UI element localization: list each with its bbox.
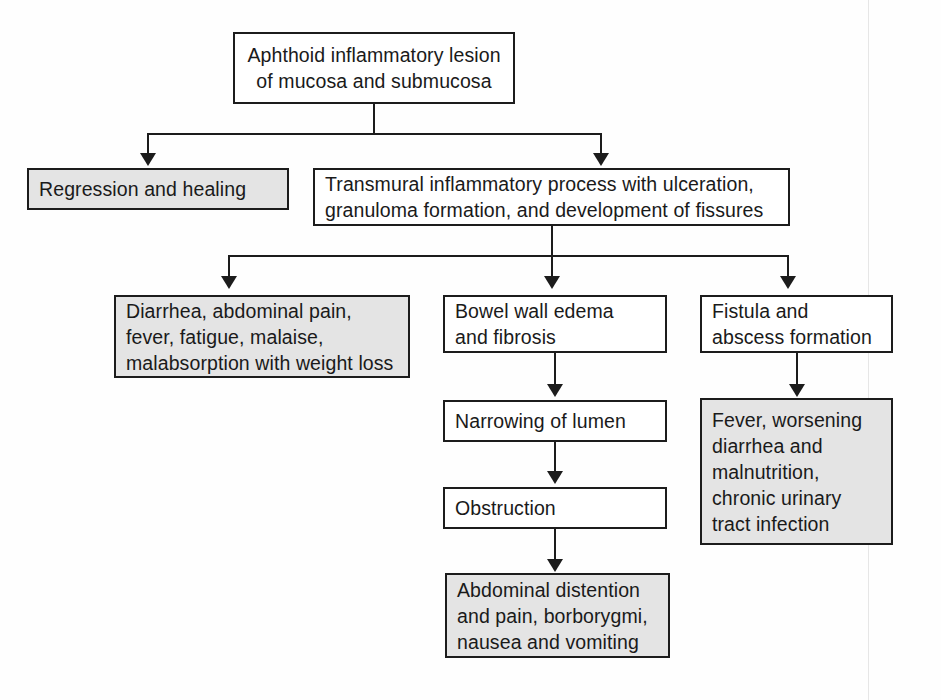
arrowhead-to-obstruction-symptoms xyxy=(547,559,563,572)
arrowhead-to-regression xyxy=(140,153,156,166)
connector-fistula-to-symptoms xyxy=(796,353,798,386)
connector-transmural-stem xyxy=(551,226,553,256)
arrowhead-to-symptoms-general xyxy=(221,276,237,289)
flowchart-canvas: Aphthoid inflammatory lesion of mucosa a… xyxy=(0,0,941,700)
arrowhead-to-obstruction xyxy=(547,471,563,484)
node-transmural-process-label: Transmural inflammatory process with ulc… xyxy=(325,171,763,223)
arrowhead-to-narrowing xyxy=(547,384,563,397)
node-bowel-wall-edema-label: Bowel wall edema and fibrosis xyxy=(455,298,614,350)
node-transmural-process: Transmural inflammatory process with ulc… xyxy=(313,168,790,226)
node-bowel-wall-edema: Bowel wall edema and fibrosis xyxy=(443,295,667,353)
connector-to-bowel-edema-drop xyxy=(551,255,553,278)
node-general-symptoms-label: Diarrhea, abdominal pain, fever, fatigue… xyxy=(126,298,393,376)
connector-narrowing-to-obstruction xyxy=(554,442,556,473)
node-regression-and-healing-label: Regression and healing xyxy=(39,176,246,202)
connector-obstruction-to-symptoms xyxy=(554,529,556,561)
connector-to-fistula-drop xyxy=(787,255,789,278)
arrowhead-to-bowel-wall-edema xyxy=(544,276,560,289)
connector-to-symptoms-drop xyxy=(228,255,230,278)
node-general-symptoms: Diarrhea, abdominal pain, fever, fatigue… xyxy=(114,295,410,378)
node-regression-and-healing: Regression and healing xyxy=(27,168,289,210)
node-obstruction-symptoms-label: Abdominal distention and pain, borborygm… xyxy=(457,577,648,655)
node-narrowing-of-lumen-label: Narrowing of lumen xyxy=(455,408,626,434)
connector-aphthoid-bar xyxy=(147,133,602,135)
connector-edema-to-narrowing xyxy=(554,353,556,386)
arrowhead-to-fistula xyxy=(780,276,796,289)
node-fistula-abscess: Fistula and abscess formation xyxy=(700,295,893,353)
node-obstruction-symptoms: Abdominal distention and pain, borborygm… xyxy=(445,573,670,658)
node-obstruction: Obstruction xyxy=(443,487,667,529)
node-fistula-abscess-label: Fistula and abscess formation xyxy=(712,298,872,350)
node-narrowing-of-lumen: Narrowing of lumen xyxy=(443,400,667,442)
arrowhead-to-transmural xyxy=(593,153,609,166)
node-fistula-symptoms: Fever, worsening diarrhea and malnutriti… xyxy=(700,398,893,545)
connector-aphthoid-stem xyxy=(373,104,375,134)
node-aphthoid-lesion: Aphthoid inflammatory lesion of mucosa a… xyxy=(233,32,515,104)
connector-transmural-bar xyxy=(228,255,789,257)
node-aphthoid-lesion-label: Aphthoid inflammatory lesion of mucosa a… xyxy=(245,42,503,94)
node-obstruction-label: Obstruction xyxy=(455,495,556,521)
connector-to-regression-drop xyxy=(147,133,149,155)
node-fistula-symptoms-label: Fever, worsening diarrhea and malnutriti… xyxy=(712,407,862,537)
arrowhead-to-fistula-symptoms xyxy=(789,384,805,397)
connector-to-transmural-drop xyxy=(600,133,602,155)
